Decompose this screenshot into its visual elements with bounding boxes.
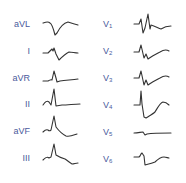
waveform-v4 — [131, 90, 181, 122]
lead-label-v2: V2 — [103, 46, 123, 58]
waveform-avf — [40, 115, 85, 143]
waveform-v6 — [131, 148, 181, 173]
lead-label-v4: V4 — [103, 100, 123, 112]
lead-label-v3: V3 — [103, 73, 123, 85]
lead-label-v5: V5 — [103, 127, 123, 139]
lead-label-avf: aVF — [0, 126, 30, 136]
waveform-avl — [40, 15, 85, 40]
waveform-iii — [40, 142, 85, 170]
waveform-v2 — [131, 40, 181, 65]
lead-label-avl: aVL — [0, 19, 30, 29]
lead-label-v6: V6 — [103, 154, 123, 166]
waveform-v3 — [131, 66, 181, 91]
waveform-avr — [40, 68, 85, 90]
waveform-v5 — [131, 125, 181, 143]
waveform-i — [40, 43, 85, 65]
lead-label-i: I — [0, 46, 30, 56]
lead-label-ii: II — [0, 99, 30, 109]
lead-label-iii: III — [0, 153, 30, 163]
waveform-ii — [40, 88, 85, 116]
lead-label-v1: V1 — [103, 19, 123, 31]
waveform-v1 — [131, 10, 181, 40]
lead-label-avr: aVR — [0, 73, 30, 83]
